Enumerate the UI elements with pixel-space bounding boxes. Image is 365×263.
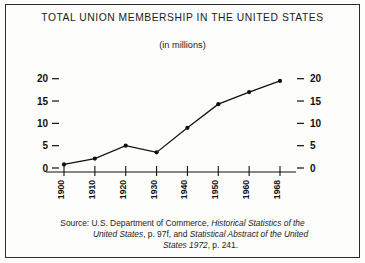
chart-page: TOTAL UNION MEMBERSHIP IN THE UNITED STA… (0, 0, 365, 263)
source-line2-italic-a: United States (93, 229, 143, 239)
x-tick-label: 1940 (179, 180, 189, 199)
x-tick-label: 1960 (241, 180, 251, 199)
data-point (154, 150, 158, 154)
data-point (216, 102, 220, 106)
source-line3-suffix: , p. 241. (208, 240, 238, 250)
y-tick-label-left: 10 (37, 118, 49, 129)
data-point (93, 157, 97, 161)
source-line-3: States 1972, p. 241. (0, 240, 365, 251)
plot-area: 05101520 05101520 1900191019201930194019… (18, 60, 347, 210)
data-point (247, 90, 251, 94)
source-line1-italic: Historical Statistics of the (211, 218, 305, 228)
source-line-2: United States, p. 97f, and Statistical A… (0, 229, 365, 240)
y-tick-label-right: 15 (310, 96, 322, 107)
source-line-1: Source: U.S. Department of Commerce, His… (0, 218, 365, 229)
data-point (278, 79, 282, 83)
y-tick-label-left: 5 (42, 140, 48, 151)
source-note: Source: U.S. Department of Commerce, His… (0, 218, 365, 252)
source-line2-mid: , p. 97f, and (143, 229, 190, 239)
x-tick-label: 1920 (118, 180, 128, 199)
y-axis-right: 05101520 (297, 73, 322, 173)
x-axis: 19001910192019301940195019601968 (46, 166, 296, 199)
source-line3-italic: States 1972 (163, 240, 208, 250)
y-tick-label-left: 20 (37, 73, 49, 84)
source-line1-prefix: Source: U.S. Department of Commerce, (60, 218, 211, 228)
data-point (124, 144, 128, 148)
x-tick-label: 1910 (87, 180, 97, 199)
chart-subtitle: (in millions) (0, 40, 365, 50)
line-chart-svg: 05101520 05101520 1900191019201930194019… (18, 60, 347, 210)
x-tick-label: 1930 (149, 180, 159, 199)
data-point (62, 162, 66, 166)
source-line2-italic-b: Statistical Abstract of the United (190, 229, 308, 239)
y-tick-label-right: 5 (310, 140, 316, 151)
x-tick-label: 1968 (272, 180, 282, 199)
y-axis-left: 05101520 (37, 73, 59, 173)
chart-title: TOTAL UNION MEMBERSHIP IN THE UNITED STA… (0, 12, 365, 23)
y-tick-label-left: 15 (37, 96, 49, 107)
y-tick-label-right: 20 (310, 73, 322, 84)
x-tick-label: 1950 (210, 180, 220, 199)
x-tick-label: 1900 (56, 180, 66, 199)
data-point-group (62, 79, 282, 167)
y-tick-label-right: 0 (310, 163, 316, 174)
y-tick-label-right: 10 (310, 118, 322, 129)
data-point (185, 126, 189, 130)
